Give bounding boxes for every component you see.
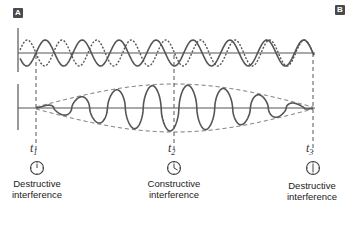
clock-icon — [307, 162, 320, 175]
time-label-t2: t2 — [168, 141, 175, 157]
envelope-upper — [36, 84, 313, 107]
caption-t3: Destructive interference — [272, 180, 349, 202]
clock-icon — [168, 162, 181, 175]
clock-icon — [31, 162, 44, 175]
bottom-wave-panel — [18, 84, 315, 132]
top-wave-panel — [18, 28, 315, 72]
caption-t2: Constructive interference — [134, 178, 214, 200]
time-label-t3: t3 — [306, 141, 313, 157]
time-label-t1: t1 — [30, 141, 37, 157]
caption-t1: Destructive interference — [0, 178, 77, 200]
